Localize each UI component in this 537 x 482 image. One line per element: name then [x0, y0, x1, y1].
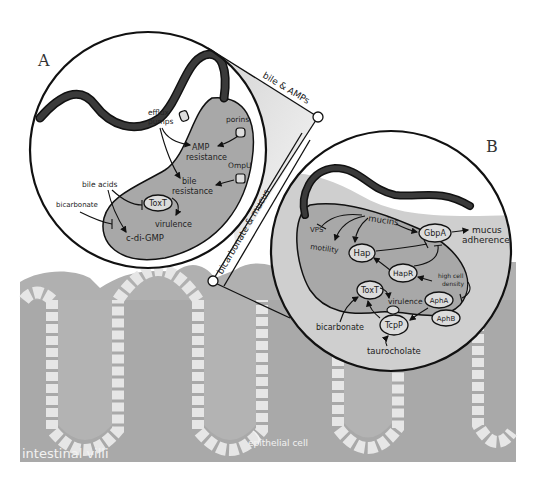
high-cell-density-label-1: high cell [438, 272, 464, 280]
taurocholate-label: taurocholate [367, 346, 421, 356]
porins-label: porins [226, 115, 249, 124]
c-di-gmp-label: c-di-GMP [126, 233, 164, 243]
tcpp-label: TcpP [384, 321, 403, 330]
villus [198, 300, 262, 450]
ompu-label: OmpU [228, 161, 251, 170]
amp-label-1: AMP [192, 143, 209, 152]
hapr-label: HapR [393, 269, 413, 278]
ompu-icon [236, 174, 245, 183]
bicarbonate-label: bicarbonate [56, 201, 98, 209]
bicarbonate-b-label: bicarbonate [316, 323, 364, 332]
membrane-protein-icon [387, 306, 399, 314]
vibrio-gut-diagram: intestinal villi epithelial cell bile & … [0, 0, 537, 482]
efflux-label-1: efflux [148, 108, 170, 117]
panel-a-letter: A [37, 51, 50, 70]
bile-acids-label: bile acids [82, 180, 117, 189]
villus [52, 300, 118, 450]
mucus-adherence-label-2: adherence [462, 235, 510, 245]
gbpa-label: GbpA [424, 229, 446, 238]
anchor-dot [208, 276, 218, 286]
high-cell-density-label-2: density [442, 280, 464, 288]
mucus-adherence-label-1: mucus [472, 225, 502, 235]
intestinal-villi-label: intestinal villi [22, 446, 109, 461]
bile-label-2: resistance [172, 187, 213, 196]
apha-label: AphA [430, 297, 449, 305]
toxt-label: ToxT [148, 199, 167, 208]
virulence-label: virulence [155, 220, 192, 229]
epithelial-cell-label: epithelial cell [248, 438, 308, 448]
toxt-b-label: ToxT [360, 286, 379, 295]
diagram-canvas: intestinal villi epithelial cell bile & … [0, 0, 537, 482]
virulence-b-label: virulence [388, 297, 423, 306]
panel-a: efflux pumps porins AMP resistance OmpU … [30, 32, 266, 268]
aphb-label: AphB [437, 315, 456, 323]
bile-label-1: bile [182, 177, 197, 186]
amp-label-2: resistance [186, 153, 227, 162]
anchor-dot [313, 112, 323, 122]
panel-b-letter: B [486, 137, 498, 156]
efflux-label-2: pumps [148, 117, 174, 126]
porin-icon [236, 128, 245, 137]
hap-label: Hap [354, 248, 371, 258]
